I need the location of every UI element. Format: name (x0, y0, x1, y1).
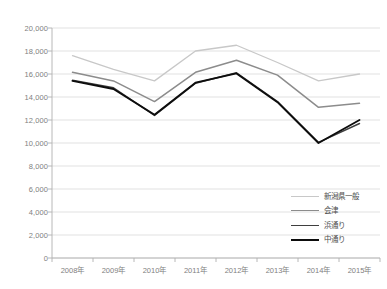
x-tick-label: 2008年 (61, 266, 85, 275)
line-chart: 20,00018,00016,00014,00012,00010,0008,00… (0, 0, 387, 289)
x-tick-label: 2015年 (348, 266, 372, 275)
legend-item-label: 浜通り (324, 221, 345, 230)
x-tick-label: 2014年 (307, 266, 331, 275)
legend-item-label: 新潟県一般 (324, 192, 359, 201)
legend-item-label: 会津 (324, 206, 338, 215)
legend-line-swatch (291, 239, 319, 241)
x-tick-label: 2013年 (266, 266, 290, 275)
legend-line-swatch (291, 225, 319, 226)
x-tick-label: 2010年 (143, 266, 167, 275)
legend-line-swatch (291, 196, 319, 197)
legend-item-label: 中通り (324, 235, 345, 244)
x-tick-label: 2009年 (102, 266, 126, 275)
legend-line-swatch (291, 210, 319, 211)
legend-item[interactable]: 浜通り (291, 218, 359, 233)
legend-item[interactable]: 新潟県一般 (291, 189, 359, 204)
legend-item[interactable]: 会津 (291, 204, 359, 219)
x-tick-label: 2011年 (184, 266, 207, 275)
chart-legend: 新潟県一般会津浜通り中通り (291, 189, 359, 247)
x-tick-label: 2012年 (225, 266, 249, 275)
legend-item[interactable]: 中通り (291, 233, 359, 248)
